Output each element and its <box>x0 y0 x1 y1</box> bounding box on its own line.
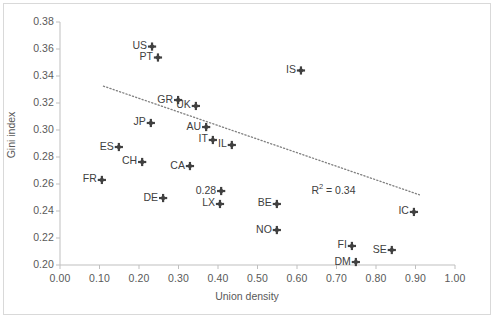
marker-IL <box>228 141 236 149</box>
marker-IC <box>410 208 418 216</box>
point-label-BE: BE <box>212 196 272 208</box>
y-tick-0.24: 0.24 <box>18 204 54 216</box>
point-label-IL: IL <box>167 137 227 149</box>
r-squared-annotation: R2 = 0.34 <box>311 182 355 196</box>
y-tick-0.36: 0.36 <box>18 42 54 54</box>
marker-PT <box>154 53 162 61</box>
marker-ES <box>115 143 123 151</box>
point-label-IS: IS <box>236 63 296 75</box>
point-label-SE: SE <box>327 243 387 255</box>
point-label-CA: CA <box>125 159 185 171</box>
point-label-JP: JP <box>86 115 146 127</box>
point-label-PT: PT <box>93 50 153 62</box>
point-label-DM: DM <box>291 255 351 267</box>
y-tick-0.28: 0.28 <box>18 150 54 162</box>
x-axis-title: Union density <box>0 290 494 302</box>
point-label-DE: DE <box>98 191 158 203</box>
marker-FR <box>98 176 106 184</box>
marker-NO <box>273 226 281 234</box>
marker-UK <box>192 102 200 110</box>
y-tick-0.30: 0.30 <box>18 123 54 135</box>
point-label-NO: NO <box>212 223 272 235</box>
y-tick-0.22: 0.22 <box>18 231 54 243</box>
point-label-UK: UK <box>131 98 191 110</box>
plot-canvas <box>0 0 494 318</box>
y-axis-title: Gini index <box>5 95 17 175</box>
point-label-FR: FR <box>37 172 97 184</box>
y-tick-0.32: 0.32 <box>18 96 54 108</box>
y-tick-0.34: 0.34 <box>18 69 54 81</box>
point-label-0.28: 0.28 <box>156 184 216 196</box>
scatter-chart: 0.200.220.240.260.280.300.320.340.360.38… <box>0 0 494 318</box>
marker-SE <box>388 246 396 254</box>
y-tick-0.38: 0.38 <box>18 15 54 27</box>
marker-IS <box>297 66 305 74</box>
point-label-AU: AU <box>141 120 201 132</box>
x-tick-1.00: 1.00 <box>430 272 480 284</box>
marker-AU <box>202 123 210 131</box>
point-label-IC: IC <box>349 204 409 216</box>
marker-0.28 <box>217 187 225 195</box>
marker-CA <box>186 162 194 170</box>
point-label-ES: ES <box>54 140 114 152</box>
point-label-LX: LX <box>155 196 215 208</box>
y-tick-0.20: 0.20 <box>18 258 54 270</box>
marker-BE <box>273 200 281 208</box>
